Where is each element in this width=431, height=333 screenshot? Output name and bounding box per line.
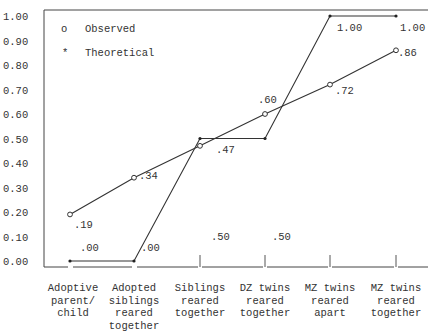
observed-value-label: .60: [258, 94, 277, 106]
y-tick-label: 0.00: [3, 256, 28, 268]
x-category-label: DZ twins reared together: [231, 282, 299, 320]
observed-point-circle: [263, 112, 268, 117]
y-tick-label: 0.50: [3, 134, 28, 146]
x-category-label: MZ twins reared together: [362, 282, 430, 320]
legend-theoretical-symbol: *: [62, 47, 68, 59]
theoretical-point-star: [263, 137, 266, 140]
observed-line: [70, 50, 396, 214]
theoretical-value-label: .00: [80, 242, 99, 254]
y-tick-label: 0.10: [3, 232, 28, 244]
theoretical-value-label: .50: [211, 231, 230, 243]
observed-point-circle: [132, 175, 137, 180]
y-tick-label: 0.30: [3, 183, 28, 195]
observed-value-label: .72: [335, 85, 354, 97]
legend-theoretical-label: Theoretical: [85, 47, 154, 59]
y-axis-ticks: 1.000.900.800.700.600.500.400.300.200.10…: [3, 11, 28, 268]
observed-value-label: .86: [398, 47, 417, 59]
legend-observed-label: Observed: [85, 23, 135, 35]
theoretical-point-star: [394, 14, 397, 17]
theoretical-point-star: [132, 259, 135, 262]
legend-observed-symbol: o: [61, 23, 67, 35]
observed-point-circle: [68, 212, 73, 217]
x-category-label: Siblings reared together: [166, 282, 234, 320]
theoretical-point-star: [68, 259, 71, 262]
theoretical-value-label: 1.00: [337, 22, 362, 34]
x-category-label: MZ twins reared apart: [296, 282, 364, 320]
legend: o Observed * Theoretical: [61, 23, 154, 59]
y-tick-label: 0.80: [3, 60, 28, 72]
theoretical-point-star: [198, 137, 201, 140]
observed-value-label: .19: [74, 219, 93, 231]
y-tick-label: 0.90: [3, 36, 28, 48]
observed-point-circle: [328, 82, 333, 87]
observed-point-circle: [198, 143, 203, 148]
observed-value-label: .47: [216, 144, 235, 156]
theoretical-value-label: .00: [141, 242, 160, 254]
y-tick-label: 0.70: [3, 85, 28, 97]
x-category-label: Adopted siblings reared together: [100, 282, 168, 332]
theoretical-value-label: .50: [272, 231, 291, 243]
x-category-label: Adoptive parent/ child: [39, 282, 107, 320]
observed-value-label: .34: [139, 170, 158, 182]
theoretical-value-label: 1.00: [400, 22, 425, 34]
y-tick-label: 0.20: [3, 207, 28, 219]
y-tick-label: 0.40: [3, 158, 28, 170]
y-tick-label: 0.60: [3, 109, 28, 121]
y-tick-label: 1.00: [3, 11, 28, 23]
theoretical-point-star: [328, 14, 331, 17]
